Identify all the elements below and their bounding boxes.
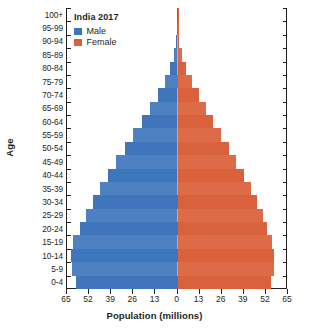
age-tick-mark-right [283, 155, 287, 156]
age-tick-label: 35-39 [42, 184, 63, 192]
age-tick-mark-right [283, 182, 287, 183]
age-tick-mark-right [283, 62, 287, 63]
legend-label-female: Female [87, 38, 117, 47]
age-tick-label: 90-94 [42, 37, 63, 45]
age-tick-mark-right [283, 209, 287, 210]
age-tick-mark-right [283, 88, 287, 89]
age-tick-mark-left [67, 182, 71, 183]
age-tick-label: 80-84 [42, 64, 63, 72]
age-tick-mark-left [67, 209, 71, 210]
age-tick-mark-left [67, 195, 71, 196]
legend-swatch-female-icon [74, 39, 82, 47]
age-tick-mark-left [67, 276, 71, 277]
age-tick-mark-right [283, 128, 287, 129]
age-axis-row: 50-54 [67, 142, 286, 155]
age-tick-mark-right [283, 75, 287, 76]
age-tick-mark-left [67, 222, 71, 223]
x-tick-label: 52 [83, 294, 92, 304]
age-tick-label: 85-89 [42, 51, 63, 59]
age-axis-row: 25-29 [67, 209, 286, 222]
age-tick-label: 15-19 [42, 238, 63, 246]
age-tick-mark-left [67, 102, 71, 103]
legend-title: India 2017 [74, 12, 160, 22]
age-axis-row: 70-74 [67, 88, 286, 101]
x-tick-mark [110, 289, 111, 294]
x-tick-mark [154, 289, 155, 294]
age-tick-mark-right [283, 276, 287, 277]
age-tick-label: 30-34 [42, 198, 63, 206]
age-tick-label: 10-14 [42, 251, 63, 259]
x-axis-tick-labels: 655239261301326395265 [66, 294, 287, 308]
plot-area: 100+95-9990-9485-8980-8475-7970-7465-696… [66, 8, 287, 289]
age-tick-label: 45-49 [42, 158, 63, 166]
age-tick-label: 55-59 [42, 131, 63, 139]
x-tick-label: 0 [174, 294, 179, 304]
age-axis-row: 65-69 [67, 102, 286, 115]
age-axis-row: 10-14 [67, 249, 286, 262]
age-tick-label: 5-9 [51, 265, 63, 273]
age-tick-label: 75-79 [42, 77, 63, 85]
age-tick-mark-left [67, 62, 71, 63]
age-tick-label: 40-44 [42, 171, 63, 179]
age-axis-row: 60-64 [67, 115, 286, 128]
legend-item-male: Male [74, 27, 160, 36]
x-tick-label: 65 [61, 294, 70, 304]
age-axis-row: 55-59 [67, 128, 286, 141]
age-tick-mark-left [67, 249, 71, 250]
age-tick-mark-right [283, 48, 287, 49]
x-tick-mark [66, 289, 67, 294]
age-tick-mark-left [67, 88, 71, 89]
age-tick-label: 65-69 [42, 104, 63, 112]
x-tick-label: 13 [150, 294, 159, 304]
legend-item-female: Female [74, 38, 160, 47]
x-tick-mark [88, 289, 89, 294]
age-tick-mark-left [67, 155, 71, 156]
x-tick-label: 39 [105, 294, 114, 304]
x-tick-mark [265, 289, 266, 294]
age-tick-mark-right [283, 169, 287, 170]
y-axis-title: Age [4, 123, 15, 173]
legend-swatch-male-icon [74, 28, 82, 36]
legend: India 2017 Male Female [74, 12, 160, 49]
age-tick-mark-left [67, 235, 71, 236]
x-tick-mark [243, 289, 244, 294]
age-tick-mark-right [283, 115, 287, 116]
age-axis-row: 80-84 [67, 62, 286, 75]
age-tick-mark-right [283, 262, 287, 263]
age-tick-mark-right [283, 222, 287, 223]
age-tick-mark-left [67, 115, 71, 116]
age-axis-row: 85-89 [67, 48, 286, 61]
age-tick-label: 0-4 [51, 278, 63, 286]
age-axis-row: 45-49 [67, 155, 286, 168]
age-tick-mark-right [283, 249, 287, 250]
age-axis-row: 0-4 [67, 276, 286, 289]
age-tick-mark-right [283, 102, 287, 103]
age-axis-row: 5-9 [67, 262, 286, 275]
age-tick-mark-left [67, 8, 71, 9]
age-tick-label: 50-54 [42, 144, 63, 152]
age-axis-row: 20-24 [67, 222, 286, 235]
x-tick-label: 39 [238, 294, 247, 304]
age-axis-row: 40-44 [67, 169, 286, 182]
age-tick-label: 60-64 [42, 118, 63, 126]
age-axis-row: 75-79 [67, 75, 286, 88]
age-tick-mark-right [283, 8, 287, 9]
x-tick-label: 26 [128, 294, 137, 304]
age-tick-mark-right [283, 142, 287, 143]
age-tick-label: 100+ [45, 11, 63, 19]
legend-label-male: Male [87, 27, 107, 36]
x-tick-label: 26 [216, 294, 225, 304]
age-axis-row: 30-34 [67, 195, 286, 208]
age-tick-label: 70-74 [42, 91, 63, 99]
age-tick-mark-left [67, 21, 71, 22]
age-tick-mark-left [67, 75, 71, 76]
age-tick-label: 95-99 [42, 24, 63, 32]
age-tick-mark-left [67, 169, 71, 170]
x-axis-title: Population (millions) [0, 310, 309, 321]
x-tick-label: 65 [282, 294, 291, 304]
x-tick-label: 52 [260, 294, 269, 304]
x-tick-mark [177, 289, 178, 294]
age-axis-row: 35-39 [67, 182, 286, 195]
age-tick-mark-left [67, 128, 71, 129]
x-tick-mark [199, 289, 200, 294]
